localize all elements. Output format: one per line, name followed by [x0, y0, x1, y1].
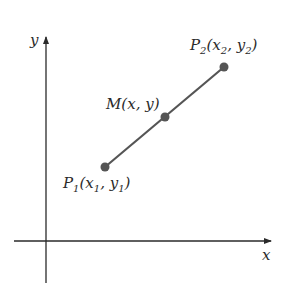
label-p1: P1(x1, y1) — [62, 174, 131, 194]
x-axis-label: x — [262, 246, 271, 264]
midpoint-diagram: x y P2(x2, y2) M(x, y) P1(x1, y1) — [0, 0, 291, 294]
y-axis-label: y — [29, 31, 39, 49]
point-m — [161, 113, 170, 122]
label-p2: P2(x2, y2) — [189, 36, 258, 56]
point-p2 — [220, 63, 229, 72]
point-p1 — [101, 163, 110, 172]
label-m: M(x, y) — [105, 95, 160, 113]
